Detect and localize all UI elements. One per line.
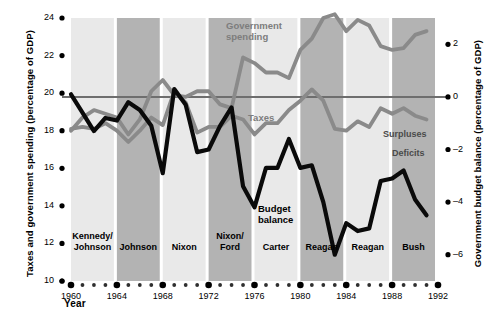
x-tick-dot-minor [81,283,85,287]
x-tick-dot-minor [218,283,222,287]
left-tick-label: 18 [32,125,54,135]
x-tick-dot-major [159,282,166,289]
x-tick-label: 1984 [329,291,363,301]
deficits-label: Deficits [392,148,425,158]
x-tick-dot-major [297,282,304,289]
right-tick-dot [445,200,450,205]
left-tick-dot [59,166,64,171]
right-tick-dot [445,42,450,47]
taxes-annotation: Taxes [248,112,274,123]
x-tick-dot-major [389,282,396,289]
plot-area [0,0,497,319]
x-tick-dot-major [251,282,258,289]
x-tick-dot-minor [172,283,176,287]
right-axis-ticks [445,42,450,258]
left-tick-dot [59,128,64,133]
right-tick-label: 0 [453,91,458,101]
president-label-line: Nixon/ [195,231,265,242]
x-tick-dot-minor [104,283,108,287]
x-tick-dot-minor [184,283,188,287]
x-tick-dot-major [68,282,75,289]
x-tick-dot-minor [379,283,383,287]
x-tick-dot-minor [321,283,325,287]
left-tick-dot [59,15,64,20]
x-tick-label: 1968 [146,291,180,301]
x-tick-label: 1964 [100,291,134,301]
right-tick-label: –4 [453,196,463,206]
left-tick-label: 10 [32,275,54,285]
x-tick-dot-minor [367,283,371,287]
x-tick-dot-minor [356,283,360,287]
x-tick-dot-minor [138,283,142,287]
x-tick-dot-major [205,282,212,289]
x-tick-dot-minor [425,283,429,287]
left-tick-label: 22 [32,50,54,60]
x-tick-dot-minor [333,283,337,287]
x-tick-label: 1972 [192,291,226,301]
right-tick-label: 2 [453,38,458,48]
x-tick-dot-minor [241,283,245,287]
budget-chart-figure: Taxes and government spending (percentag… [0,0,497,319]
x-tick-label: 1980 [283,291,317,301]
right-tick-label: –2 [453,144,463,154]
x-tick-dot-minor [195,283,199,287]
x-tick-dot-minor [402,283,406,287]
taxes-label: Taxes [248,112,274,123]
axis-origin-dot [59,278,64,283]
x-tick-dot-major [435,282,442,289]
government-spending-label-line1: Government [226,20,282,31]
x-tick-dot-minor [264,283,268,287]
x-tick-dot-major [343,282,350,289]
x-tick-label: 1960 [54,291,88,301]
government-spending-annotation: Government spending [226,20,282,42]
president-label-line: Kennedy/ [57,231,127,242]
left-tick-label: 24 [32,12,54,22]
budget-balance-label-line1: Budget [258,203,293,214]
left-tick-dot [59,53,64,58]
left-tick-dot [59,91,64,96]
budget-balance-annotation: Budget balance [258,203,293,225]
x-tick-dot-minor [149,283,153,287]
x-tick-dot-major [114,282,121,289]
x-tick-label: 1988 [375,291,409,301]
right-tick-dot [445,147,450,152]
president-label: Bush [379,242,449,253]
x-tick-dot-minor [310,283,314,287]
left-tick-label: 16 [32,162,54,172]
left-tick-label: 14 [32,200,54,210]
government-spending-label-line2: spending [226,31,282,42]
x-tick-dot-minor [230,283,234,287]
left-tick-label: 12 [32,237,54,247]
x-tick-label: 1976 [238,291,272,301]
x-tick-label: 1992 [421,291,455,301]
x-tick-dot-minor [126,283,130,287]
left-tick-dot [59,203,64,208]
president-label-line: Bush [379,242,449,253]
right-tick-label: –6 [453,249,463,259]
x-tick-dot-minor [413,283,417,287]
surpluses-label: Surpluses [383,129,427,139]
x-tick-dot-minor [287,283,291,287]
x-tick-dot-minor [276,283,280,287]
budget-balance-label-line2: balance [258,214,293,225]
left-tick-label: 20 [32,87,54,97]
right-tick-dot [445,94,450,99]
x-tick-dot-minor [92,283,96,287]
